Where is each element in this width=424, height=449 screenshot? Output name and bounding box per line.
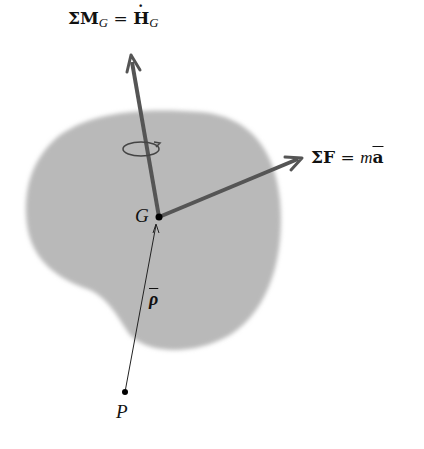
force-equation-label: ΣF = ma (311, 149, 383, 166)
moment-equation-label: ΣMG = ·HG (68, 10, 158, 30)
center-of-mass-point (156, 214, 163, 221)
point-p-label: P (116, 402, 128, 421)
point-p (122, 389, 128, 395)
center-of-mass-label: G (135, 206, 149, 225)
position-vector-label: ρ (149, 290, 158, 308)
rigid-body-diagram (0, 0, 424, 449)
h-dot-symbol: ·H (133, 8, 149, 28)
